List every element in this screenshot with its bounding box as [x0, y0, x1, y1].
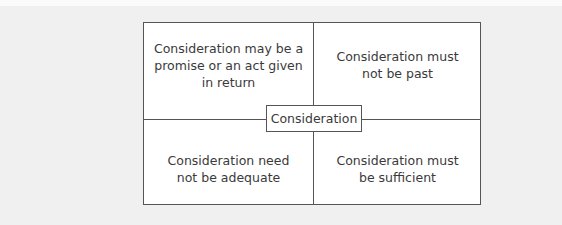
quadrant-text: Consideration must not be past — [333, 48, 463, 82]
quadrant-top-right: Consideration must not be past — [314, 23, 481, 107]
quadrant-bottom-left: Consideration need not be adequate — [144, 133, 313, 205]
quadrant-text: Consideration may be a promise or an act… — [152, 40, 305, 91]
quadrant-top-left: Consideration may be a promise or an act… — [144, 23, 313, 107]
quadrant-text: Consideration need not be adequate — [159, 152, 299, 186]
quadrant-bottom-right: Consideration must be sufficient — [314, 133, 481, 205]
center-label: Consideration — [271, 111, 358, 126]
quadrant-text: Consideration must be sufficient — [328, 152, 468, 186]
consideration-diagram: Consideration may be a promise or an act… — [143, 22, 481, 205]
center-label-box: Consideration — [266, 105, 362, 132]
top-strip — [0, 0, 562, 6]
